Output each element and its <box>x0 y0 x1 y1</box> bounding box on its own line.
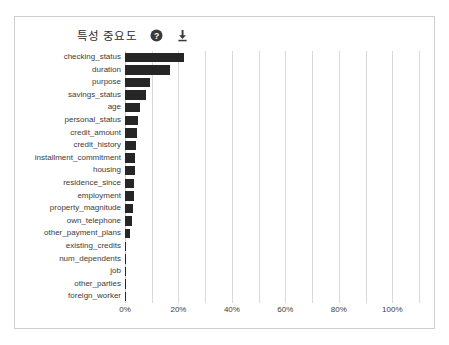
help-circle-icon[interactable]: ? <box>150 29 163 42</box>
y-axis-label-personal_status: personal_status <box>15 114 121 127</box>
y-axis-label-employment: employment <box>15 190 121 203</box>
x-axis-labels: 0%20%40%60%80%100% <box>125 305 419 321</box>
y-axis-label-duration: duration <box>15 64 121 77</box>
y-axis-label-other_payment_plans: other_payment_plans <box>15 227 121 240</box>
y-axis-label-own_telephone: own_telephone <box>15 215 121 228</box>
page-title: 특성 중요도 <box>77 27 137 43</box>
bar-row[interactable] <box>125 76 419 89</box>
bar-age[interactable] <box>125 103 140 112</box>
bar-row[interactable] <box>125 227 419 240</box>
y-axis-label-housing: housing <box>15 164 121 177</box>
y-axis-label-existing_credits: existing_credits <box>15 240 121 253</box>
svg-text:?: ? <box>154 30 159 40</box>
bar-num_dependents[interactable] <box>125 254 126 263</box>
y-axis-label-property_magnitude: property_magnitude <box>15 202 121 215</box>
bar-credit_history[interactable] <box>125 141 136 150</box>
bar-other_parties[interactable] <box>125 279 126 288</box>
bar-row[interactable] <box>125 177 419 190</box>
bar-row[interactable] <box>125 114 419 127</box>
bar-other_payment_plans[interactable] <box>125 229 130 238</box>
y-axis-label-residence_since: residence_since <box>15 177 121 190</box>
y-axis-label-checking_status: checking_status <box>15 51 121 64</box>
bar-row[interactable] <box>125 164 419 177</box>
chart-plot: checking_statusdurationpurposesavings_st… <box>15 47 434 328</box>
chart-card: 특성 중요도 ? checking_statusdurationpurposes… <box>14 16 435 329</box>
y-axis-label-installment_commitment: installment_commitment <box>15 152 121 165</box>
bar-personal_status[interactable] <box>125 116 138 125</box>
y-axis-label-num_dependents: num_dependents <box>15 253 121 266</box>
x-axis-tick-0: 0% <box>119 305 131 314</box>
bar-rows <box>125 51 419 303</box>
bar-duration[interactable] <box>125 65 170 74</box>
y-axis-labels: checking_statusdurationpurposesavings_st… <box>15 51 121 303</box>
bar-row[interactable] <box>125 202 419 215</box>
x-axis-tick-60: 60% <box>277 305 293 314</box>
y-axis-label-credit_amount: credit_amount <box>15 127 121 140</box>
bar-own_telephone[interactable] <box>125 216 132 225</box>
bar-row[interactable] <box>125 265 419 278</box>
bar-employment[interactable] <box>125 191 134 200</box>
bar-row[interactable] <box>125 278 419 291</box>
x-axis-tick-20: 20% <box>170 305 186 314</box>
bar-checking_status[interactable] <box>125 53 184 62</box>
bar-housing[interactable] <box>125 166 135 175</box>
bar-property_magnitude[interactable] <box>125 204 133 213</box>
bar-row[interactable] <box>125 215 419 228</box>
bar-row[interactable] <box>125 240 419 253</box>
bar-row[interactable] <box>125 64 419 77</box>
bar-row[interactable] <box>125 190 419 203</box>
x-axis-tick-40: 40% <box>224 305 240 314</box>
bar-row[interactable] <box>125 253 419 266</box>
bar-residence_since[interactable] <box>125 179 134 188</box>
bar-foreign_worker[interactable] <box>125 292 126 301</box>
bar-savings_status[interactable] <box>125 90 146 99</box>
y-axis-label-age: age <box>15 101 121 114</box>
y-axis-label-savings_status: savings_status <box>15 89 121 102</box>
bar-row[interactable] <box>125 101 419 114</box>
bar-existing_credits[interactable] <box>125 242 126 251</box>
bar-row[interactable] <box>125 127 419 140</box>
y-axis-label-purpose: purpose <box>15 76 121 89</box>
x-axis-tick-80: 80% <box>331 305 347 314</box>
y-axis-label-other_parties: other_parties <box>15 278 121 291</box>
feature-importance-panel: 특성 중요도 ? checking_statusdurationpurposes… <box>0 0 449 345</box>
bar-purpose[interactable] <box>125 78 150 87</box>
y-axis-label-foreign_worker: foreign_worker <box>15 290 121 303</box>
chart-header: 특성 중요도 ? <box>77 21 189 49</box>
bar-row[interactable] <box>125 89 419 102</box>
bar-row[interactable] <box>125 290 419 303</box>
bar-job[interactable] <box>125 267 126 276</box>
bar-installment_commitment[interactable] <box>125 153 135 162</box>
gridline <box>419 51 420 303</box>
bar-row[interactable] <box>125 139 419 152</box>
y-axis-label-credit_history: credit_history <box>15 139 121 152</box>
bar-credit_amount[interactable] <box>125 128 137 137</box>
bar-row[interactable] <box>125 152 419 165</box>
download-icon[interactable] <box>176 29 189 42</box>
bar-row[interactable] <box>125 51 419 64</box>
y-axis-label-job: job <box>15 265 121 278</box>
plot-area <box>125 51 419 303</box>
x-axis-tick-100: 100% <box>382 305 402 314</box>
